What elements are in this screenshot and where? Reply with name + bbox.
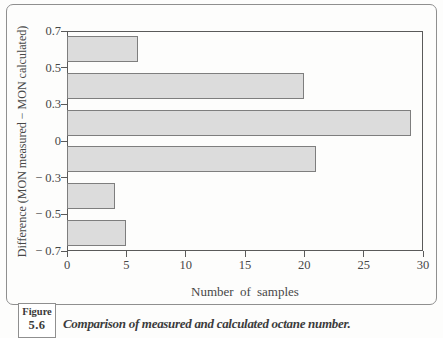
book-figure-page: Difference (MON measured − MON calculate… — [0, 0, 443, 338]
figure-number: 5.6 — [19, 318, 55, 333]
x-tick-label: 30 — [405, 258, 441, 273]
y-tick-mark — [61, 31, 67, 32]
y-tick-mark — [61, 67, 67, 68]
bar-range--0.5to-0.3 — [67, 183, 115, 209]
y-tick-label: − 0.5 — [0, 206, 61, 222]
y-tick-label: 0.7 — [0, 23, 61, 39]
x-tick-label: 5 — [108, 258, 144, 273]
x-tick-mark — [185, 251, 186, 257]
x-tick-mark — [245, 251, 246, 257]
x-tick-label: 20 — [286, 258, 322, 273]
bar-range--0.7to-0.5 — [67, 220, 126, 246]
bar-range-0.5to0.7 — [67, 36, 138, 62]
bar-range-0to0.3 — [67, 110, 411, 136]
figure-caption: Comparison of measured and calculated oc… — [63, 316, 433, 332]
x-tick-mark — [67, 251, 68, 257]
x-tick-mark — [304, 251, 305, 257]
y-tick-label: − 0.3 — [0, 170, 61, 186]
x-tick-mark — [363, 251, 364, 257]
y-tick-mark — [61, 177, 67, 178]
y-tick-label: − 0.7 — [0, 243, 61, 259]
bar-range--0.3to0 — [67, 146, 316, 172]
x-tick-label: 15 — [227, 258, 263, 273]
y-tick-label: 0.3 — [0, 96, 61, 112]
plot-area — [67, 31, 423, 251]
figure-label: Figure — [19, 306, 55, 317]
x-tick-label: 0 — [49, 258, 85, 273]
y-tick-label: 0.5 — [0, 60, 61, 76]
y-tick-mark — [61, 104, 67, 105]
x-tick-label: 10 — [168, 258, 204, 273]
x-axis-title: Number of samples — [67, 284, 423, 300]
y-tick-mark — [61, 214, 67, 215]
x-tick-label: 25 — [346, 258, 382, 273]
x-tick-mark — [126, 251, 127, 257]
figure-number-box: Figure 5.6 — [18, 303, 56, 338]
y-tick-label: 0 — [0, 133, 61, 149]
bar-range-0.3to0.5 — [67, 73, 304, 99]
y-tick-mark — [61, 141, 67, 142]
x-tick-mark — [423, 251, 424, 257]
